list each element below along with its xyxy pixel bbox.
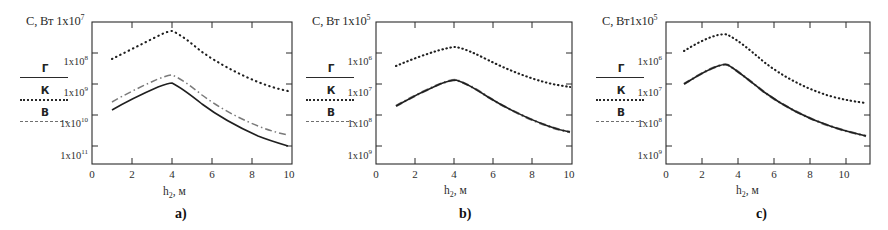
x-tick-c-1: 2: [694, 168, 710, 180]
x-tick-b-2: 4: [446, 168, 462, 180]
y-tick-a-4: 1x1011: [36, 148, 88, 161]
y-tick-b-1: 1x106: [322, 54, 372, 67]
legend-swatch-solid-icon: [306, 77, 354, 82]
x-tick-c-3: 6: [766, 168, 782, 180]
chart-panel-a: C, Вт 1x107 Г К В 1x108 1x109 1x1010: [0, 0, 296, 230]
y-tick-c-4: 1x109: [610, 148, 662, 161]
y-tick-c-3: 1x108: [610, 116, 662, 129]
x-tick-b-4: 8: [524, 168, 540, 180]
legend-swatch-dotted-icon: [596, 99, 644, 105]
plot-area-c: [666, 22, 870, 164]
x-tick-b-3: 6: [485, 168, 501, 180]
y-tick-b-3: 1x108: [322, 116, 372, 129]
x-tick-c-2: 4: [730, 168, 746, 180]
plot-area-b: [376, 22, 572, 164]
x-tick-c-4: 8: [802, 168, 818, 180]
panel-caption-a: a): [175, 206, 187, 222]
y-axis-title-c: C, Вт1x105: [602, 13, 657, 29]
y-tick-a-1: 1x108: [40, 54, 88, 67]
y-tick-b-2: 1x107: [322, 85, 372, 98]
x-tick-a-5: 10: [281, 168, 297, 180]
x-tick-a-4: 8: [244, 168, 260, 180]
panel-caption-c: c): [756, 206, 767, 222]
y-axis-title-a: C, Вт 1x107: [26, 13, 84, 29]
y-tick-b-4: 1x109: [322, 148, 372, 161]
plot-frame-c: [666, 22, 870, 164]
y-tick-a-3: 1x1010: [36, 116, 88, 129]
plot-area-a: [92, 22, 292, 164]
x-axis-label-b: h2, м: [444, 184, 467, 199]
plot-frame-b: [376, 22, 572, 164]
x-tick-a-1: 2: [124, 168, 140, 180]
legend-swatch-dotted-icon: [20, 99, 68, 105]
y-tick-c-2: 1x107: [610, 85, 662, 98]
y-tick-a-2: 1x109: [40, 85, 88, 98]
figure-three-panel-log-plots: C, Вт 1x107 Г К В 1x108 1x109 1x1010: [0, 0, 888, 230]
x-tick-c-0: 0: [658, 168, 674, 180]
legend-swatch-dotted-icon: [306, 99, 354, 105]
panel-caption-b: b): [459, 206, 471, 222]
x-tick-a-0: 0: [84, 168, 100, 180]
chart-panel-b: C, Вт 1x105 Г К В 1x106 1x107 1x108: [296, 0, 588, 230]
legend-swatch-solid-icon: [20, 77, 68, 82]
x-tick-b-0: 0: [368, 168, 384, 180]
x-axis-label-a: h2, м: [163, 185, 186, 200]
x-tick-c-5: 10: [836, 168, 852, 180]
legend-swatch-solid-icon: [596, 77, 644, 82]
x-axis-label-c: h2, м: [736, 184, 759, 199]
x-tick-b-1: 2: [407, 168, 423, 180]
y-tick-c-1: 1x106: [610, 54, 662, 67]
chart-panel-c: C, Вт1x105 Г К В 1x106 1x107 1x108: [588, 0, 888, 230]
x-tick-b-5: 10: [561, 168, 577, 180]
x-tick-a-2: 4: [164, 168, 180, 180]
x-tick-a-3: 6: [204, 168, 220, 180]
y-axis-title-b: C, Вт 1x105: [312, 13, 370, 29]
